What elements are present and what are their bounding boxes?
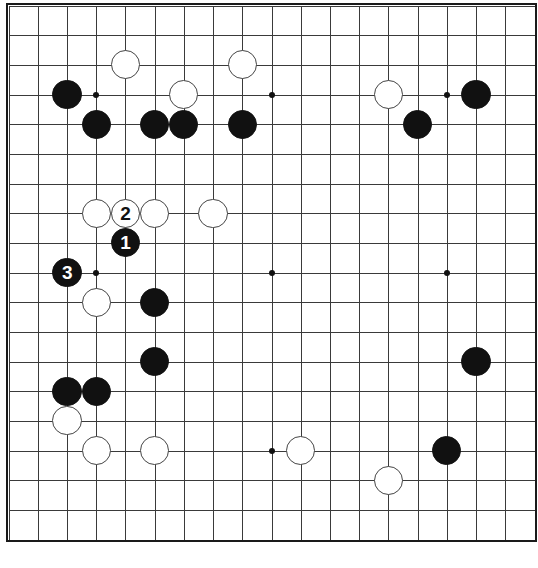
board-border — [6, 3, 537, 542]
go-diagram-page: 213 — [0, 0, 538, 568]
stone-move-number: 2 — [120, 203, 130, 222]
stone-black-move-3[interactable]: 3 — [52, 258, 81, 287]
stone-move-number: 1 — [120, 233, 130, 252]
stone-white-move-2[interactable]: 2 — [111, 199, 140, 228]
stone-move-number: 3 — [62, 262, 72, 281]
go-board[interactable]: 213 — [6, 3, 537, 542]
